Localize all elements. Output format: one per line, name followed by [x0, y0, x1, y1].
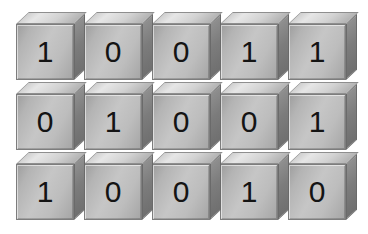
cube-digit: 0 — [173, 37, 190, 67]
cube-front-face: 1 — [16, 164, 74, 220]
cube-right-face — [142, 14, 153, 80]
cube-digit: 0 — [105, 177, 122, 207]
cube-right-face — [74, 84, 85, 150]
cube-right-face — [210, 14, 221, 80]
cube-front-face: 0 — [84, 24, 142, 80]
cube-right-face — [74, 14, 85, 80]
cube-r2c2[interactable]: 1 — [84, 82, 152, 150]
cube-right-face — [142, 154, 153, 220]
cube-front-face: 1 — [220, 164, 278, 220]
cube-digit: 0 — [173, 107, 190, 137]
cube-digit: 1 — [241, 177, 258, 207]
cube-digit: 1 — [309, 37, 326, 67]
cube-r3c2[interactable]: 0 — [84, 152, 152, 220]
cube-r3c1[interactable]: 1 — [16, 152, 84, 220]
cube-front-face: 0 — [152, 24, 210, 80]
cube-front-face: 0 — [152, 94, 210, 150]
cube-front-face: 0 — [288, 164, 346, 220]
cube-digit: 0 — [309, 177, 326, 207]
cube-front-face: 1 — [84, 94, 142, 150]
cube-digit: 1 — [309, 107, 326, 137]
cube-right-face — [210, 84, 221, 150]
cube-r3c3[interactable]: 0 — [152, 152, 220, 220]
cube-right-face — [278, 84, 289, 150]
cube-right-face — [142, 84, 153, 150]
cube-right-face — [346, 14, 357, 80]
cube-digit: 0 — [37, 107, 54, 137]
cube-r3c4[interactable]: 1 — [220, 152, 288, 220]
cube-front-face: 0 — [16, 94, 74, 150]
cube-front-face: 1 — [220, 24, 278, 80]
cube-right-face — [74, 154, 85, 220]
cube-front-face: 0 — [152, 164, 210, 220]
cube-r2c5[interactable]: 1 — [288, 82, 356, 150]
cube-front-face: 1 — [288, 24, 346, 80]
cube-r2c3[interactable]: 0 — [152, 82, 220, 150]
cube-r2c4[interactable]: 0 — [220, 82, 288, 150]
cube-front-face: 1 — [288, 94, 346, 150]
cube-front-face: 0 — [220, 94, 278, 150]
cube-front-face: 1 — [16, 24, 74, 80]
cube-right-face — [346, 84, 357, 150]
cube-right-face — [346, 154, 357, 220]
cube-r1c4[interactable]: 1 — [220, 12, 288, 80]
cube-digit: 1 — [37, 177, 54, 207]
cube-r3c5[interactable]: 0 — [288, 152, 356, 220]
cube-r2c1[interactable]: 0 — [16, 82, 84, 150]
cube-r1c1[interactable]: 1 — [16, 12, 84, 80]
cube-digit: 0 — [173, 177, 190, 207]
cube-right-face — [278, 154, 289, 220]
cube-right-face — [278, 14, 289, 80]
cube-front-face: 0 — [84, 164, 142, 220]
cube-digit: 1 — [37, 37, 54, 67]
cube-r1c2[interactable]: 0 — [84, 12, 152, 80]
cube-digit: 0 — [241, 107, 258, 137]
cube-digit: 1 — [241, 37, 258, 67]
cube-digit: 1 — [105, 107, 122, 137]
cube-r1c3[interactable]: 0 — [152, 12, 220, 80]
cube-right-face — [210, 154, 221, 220]
cube-r1c5[interactable]: 1 — [288, 12, 356, 80]
cube-digit: 0 — [105, 37, 122, 67]
binary-cube-grid: 1 0 0 1 1 0 — [0, 0, 368, 234]
